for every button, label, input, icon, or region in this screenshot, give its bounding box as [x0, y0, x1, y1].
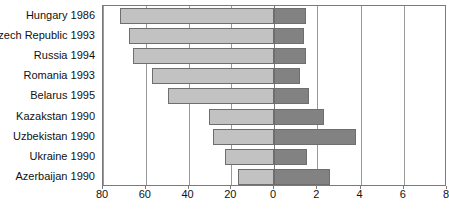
- bar-left: [225, 149, 274, 165]
- bar-row: [103, 167, 445, 186]
- x-tick-right-2: 2: [313, 188, 319, 200]
- bar-right: [274, 109, 324, 125]
- bar-row: [103, 107, 445, 127]
- category-label: Uzbekistan 1990: [13, 126, 95, 146]
- plot-area: [102, 5, 446, 186]
- x-axis: 8060402002468: [102, 188, 446, 210]
- bar-right: [274, 48, 306, 64]
- bar-right: [274, 28, 304, 44]
- category-label: Hungary 1986: [26, 5, 95, 25]
- bar-row: [103, 26, 445, 46]
- category-label: Romania 1993: [23, 65, 95, 85]
- category-label: Ukraine 1990: [30, 146, 95, 166]
- bar-row: [103, 147, 445, 167]
- bar-left: [133, 48, 274, 64]
- bar-left: [209, 109, 274, 125]
- category-label: Kazakstan 1990: [16, 106, 95, 126]
- bar-right: [274, 68, 300, 84]
- bar-right: [274, 169, 330, 185]
- bar-left: [213, 129, 274, 145]
- x-tick-right-4: 4: [356, 188, 362, 200]
- x-tick-left-40: 40: [181, 188, 193, 200]
- x-tick-left-60: 60: [139, 188, 151, 200]
- x-tick-right-6: 6: [400, 188, 406, 200]
- bar-left: [238, 169, 274, 185]
- x-tick-left-20: 20: [224, 188, 236, 200]
- bar-row: [103, 6, 445, 26]
- bar-row: [103, 66, 445, 86]
- category-label: Belarus 1995: [30, 85, 95, 105]
- category-label: Czech Republic 1993: [0, 25, 95, 45]
- bar-row: [103, 46, 445, 66]
- category-axis-labels: Hungary 1986Czech Republic 1993Russia 19…: [0, 5, 99, 186]
- bar-row: [103, 127, 445, 147]
- bar-right: [274, 129, 356, 145]
- bar-row: [103, 86, 445, 106]
- category-label: Russia 1994: [34, 45, 95, 65]
- category-label: Azerbaijan 1990: [15, 166, 95, 186]
- bar-right: [274, 88, 309, 104]
- bar-left: [152, 68, 274, 84]
- x-tick-left-80: 80: [96, 188, 108, 200]
- bar-left: [129, 28, 274, 44]
- bar-left: [120, 8, 274, 24]
- bar-right: [274, 149, 307, 165]
- bar-left: [168, 88, 274, 104]
- x-tick-left-0: 0: [270, 188, 276, 200]
- bar-right: [274, 8, 306, 24]
- x-tick-right-8: 8: [443, 188, 449, 200]
